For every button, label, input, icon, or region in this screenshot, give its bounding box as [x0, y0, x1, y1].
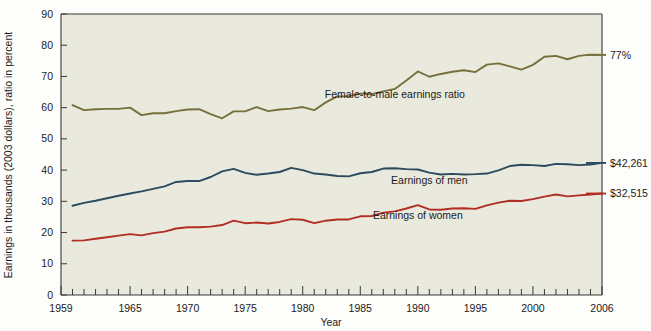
y-axis-title: Earnings in thousands (2003 dollars), ra… — [2, 32, 14, 278]
x-tick-label-1959: 1959 — [49, 302, 73, 314]
x-tick-label-1995: 1995 — [464, 302, 488, 314]
y-tick-label-90: 90 — [41, 8, 53, 20]
x-tick-label-1975: 1975 — [233, 302, 257, 314]
x-tick-label-1985: 1985 — [349, 302, 373, 314]
y-tick-label-70: 70 — [41, 70, 53, 82]
x-tick-label-1970: 1970 — [176, 302, 200, 314]
line-chart: 0102030405060708090 19591965197019751980… — [0, 0, 651, 331]
end-label-earnings-of-men: $42,261 — [610, 157, 648, 169]
women-series-label: Earnings of women — [373, 209, 463, 221]
end-label-earnings-of-women: $32,515 — [610, 187, 648, 199]
plot-background — [61, 14, 602, 295]
x-axis-title: Year — [320, 316, 342, 328]
x-tick-label-1990: 1990 — [406, 302, 430, 314]
y-tick-label-60: 60 — [41, 101, 53, 113]
y-axis-tick-labels: 0102030405060708090 — [41, 8, 53, 301]
x-axis-tick-labels: 1959196519701975198019851990199520002006 — [49, 302, 614, 314]
end-label-female-to-male-earnings-ratio: 77% — [610, 49, 631, 61]
x-tick-label-1965: 1965 — [118, 302, 142, 314]
y-tick-label-40: 40 — [41, 164, 53, 176]
x-tick-label-2006: 2006 — [590, 302, 614, 314]
chart-figure: 0102030405060708090 19591965197019751980… — [0, 0, 651, 331]
y-tick-label-20: 20 — [41, 226, 53, 238]
y-tick-label-10: 10 — [41, 257, 53, 269]
x-tick-label-2000: 2000 — [521, 302, 545, 314]
y-tick-label-80: 80 — [41, 39, 53, 51]
ratio-series-label: Female-to-male earnings ratio — [325, 88, 465, 100]
x-tick-label-1980: 1980 — [291, 302, 315, 314]
y-tick-label-50: 50 — [41, 132, 53, 144]
men-series-label: Earnings of men — [391, 174, 468, 186]
y-tick-label-0: 0 — [47, 289, 53, 301]
y-tick-label-30: 30 — [41, 195, 53, 207]
